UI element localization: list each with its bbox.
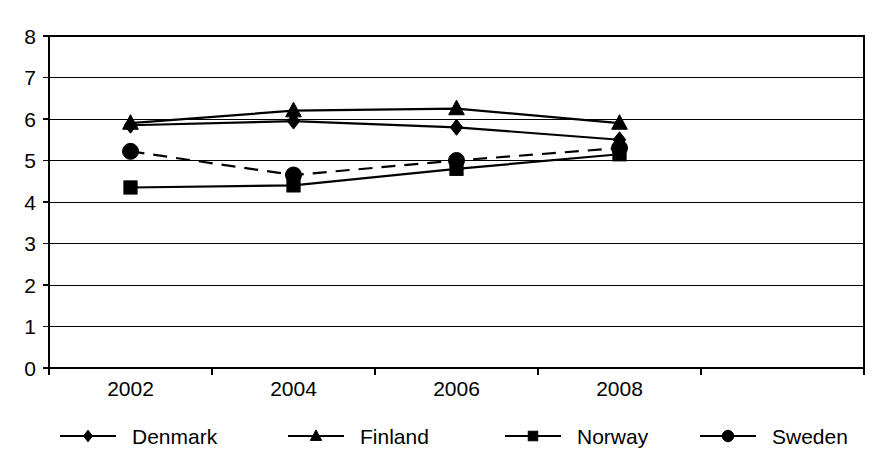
x-axis-label-2008: 2008 [596,377,643,400]
y-axis-tick-labels: 876543210 [24,25,36,380]
y-axis-label-1: 1 [24,315,36,338]
chart-legend: DenmarkFinlandNorwaySweden [60,425,848,448]
y-axis-label-0: 0 [24,357,36,380]
x-axis-label-2002: 2002 [107,377,154,400]
y-axis-label-4: 4 [24,191,36,214]
data-point-norway-2002 [124,181,137,194]
gridlines [49,36,864,368]
data-point-sweden-2006 [449,153,465,169]
y-axis-label-6: 6 [24,108,36,131]
data-point-sweden-2008 [612,140,628,156]
x-axis-label-2006: 2006 [433,377,480,400]
y-axis-label-2: 2 [24,274,36,297]
y-axis-label-5: 5 [24,149,36,172]
x-axis-label-2004: 2004 [270,377,317,400]
y-axis-tick-marks [43,36,49,368]
data-point-finland-2004 [286,102,302,117]
data-point-denmark-2006 [450,119,462,135]
y-axis-label-8: 8 [24,25,36,48]
line-chart: 876543210 2002200420062008 DenmarkFinlan… [0,0,888,466]
legend-item-sweden[interactable]: Sweden [700,425,848,448]
data-point-sweden-2004 [286,167,302,183]
legend-label-norway: Norway [577,425,649,448]
series-line-denmark [131,121,620,140]
data-series-group [123,100,628,194]
legend-item-norway[interactable]: Norway [505,425,649,448]
y-axis-label-3: 3 [24,232,36,255]
legend-marker-square-icon [528,431,538,441]
x-axis-tick-labels: 2002200420062008 [107,377,643,400]
legend-label-finland: Finland [360,425,429,448]
data-point-finland-2006 [449,100,465,115]
series-line-finland [131,109,620,124]
legend-marker-diamond-icon [84,430,93,442]
series-norway [124,148,626,194]
legend-item-denmark[interactable]: Denmark [60,425,218,448]
y-axis-label-7: 7 [24,66,36,89]
legend-label-denmark: Denmark [132,425,218,448]
chart-canvas: 876543210 2002200420062008 DenmarkFinlan… [0,0,888,466]
series-line-norway [131,154,620,187]
legend-item-finland[interactable]: Finland [288,425,429,448]
legend-label-sweden: Sweden [772,425,848,448]
legend-marker-circle-icon [722,430,734,442]
data-point-sweden-2002 [123,143,139,159]
x-axis-tick-marks [49,368,864,375]
